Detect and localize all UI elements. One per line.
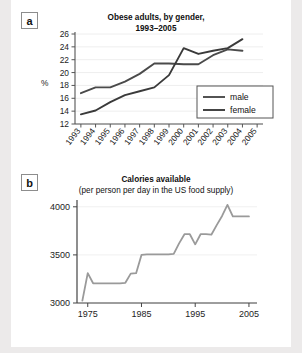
y-tick-label: 22 bbox=[60, 55, 70, 65]
legend-label-female: female bbox=[230, 105, 256, 115]
x-tick-label: 1994 bbox=[78, 126, 98, 147]
y-axis-label: % bbox=[41, 78, 49, 88]
panel-b: b Calories available (per person per day… bbox=[11, 174, 291, 342]
series-line-calories bbox=[82, 205, 249, 301]
figure-paper: a Obese adults, by gender, 1993–2005 121… bbox=[11, 0, 291, 347]
y-tick-label: 20 bbox=[60, 68, 70, 78]
x-tick-label: 1985 bbox=[131, 309, 151, 319]
x-tick-label: 1996 bbox=[107, 126, 127, 147]
legend-label-male: male bbox=[230, 92, 249, 102]
x-tick-label: 2003 bbox=[210, 126, 230, 147]
x-tick-label: 1975 bbox=[78, 309, 98, 319]
x-tick-label: 2001 bbox=[181, 126, 201, 147]
y-tick-label: 16 bbox=[60, 93, 70, 103]
x-tick-label: 2000 bbox=[166, 126, 186, 147]
y-tick-label: 12 bbox=[60, 119, 70, 129]
y-tick-label: 3500 bbox=[50, 250, 70, 260]
x-tick-label: 1997 bbox=[122, 126, 142, 147]
y-tick-label: 14 bbox=[60, 106, 70, 116]
x-tick-label: 2005 bbox=[239, 126, 259, 147]
chart-a-plot: 1214161820222426%19931994199519961997199… bbox=[11, 2, 291, 174]
panel-a: a Obese adults, by gender, 1993–2005 121… bbox=[11, 2, 291, 174]
chart-b-plot: 3000350040001975198519952005 bbox=[11, 174, 291, 342]
y-tick-label: 4000 bbox=[50, 202, 70, 212]
x-tick-label: 1999 bbox=[151, 126, 171, 147]
figure-container: a Obese adults, by gender, 1993–2005 121… bbox=[0, 0, 302, 353]
y-tick-label: 24 bbox=[60, 42, 70, 52]
x-tick-label: 1995 bbox=[92, 126, 112, 147]
y-tick-label: 26 bbox=[60, 29, 70, 39]
x-tick-label: 2005 bbox=[239, 309, 259, 319]
y-tick-label: 18 bbox=[60, 80, 70, 90]
y-tick-label: 3000 bbox=[50, 298, 70, 308]
x-tick-label: 2004 bbox=[225, 126, 245, 147]
x-tick-label: 2002 bbox=[195, 126, 215, 147]
x-tick-label: 1995 bbox=[185, 309, 205, 319]
x-tick-label: 1998 bbox=[137, 126, 157, 147]
